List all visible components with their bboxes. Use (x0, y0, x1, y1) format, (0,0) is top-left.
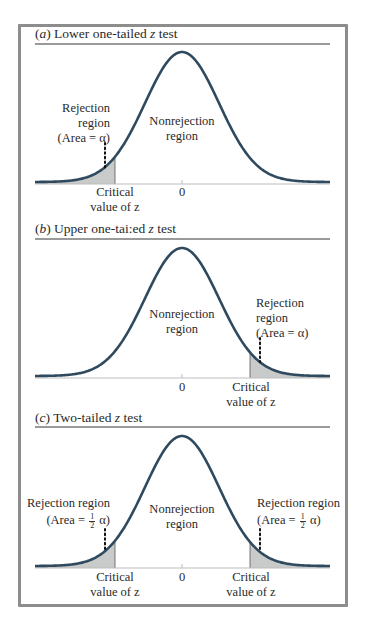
panel-c-nonrejection-label: Nonrejection region (146, 502, 218, 532)
one-half-fraction: 12 (89, 513, 95, 530)
panel-c-right-rejection-label: Rejection region (Area = 12 α) (257, 496, 341, 530)
panel-b-critical-value-label: Critical value of z (220, 380, 282, 410)
panel-b-rejection-label: Rejection region (Area = α) (256, 296, 316, 341)
panel-b-nonrejection-label: Nonrejection region (146, 307, 218, 337)
panel-a-rejection-label: Rejection region (Area = α) (52, 101, 110, 146)
panel-a-nonrejection-label: Nonrejection region (146, 114, 218, 144)
panel-c-zero-label: 0 (176, 570, 188, 585)
panel-a-title: (a) Lower one-tailed z test (35, 26, 177, 42)
panel-b-title: (b) Upper one-tai:ed z test (35, 221, 176, 237)
panel-a-critical-value-label: Critical value of z (84, 185, 146, 215)
panel-b-zero-label: 0 (176, 380, 188, 395)
panel-a-zero-label: 0 (176, 185, 188, 200)
panel-c-right-critical-value-label: Critical value of z (220, 570, 282, 600)
panel-c-left-critical-value-label: Critical value of z (84, 570, 146, 600)
one-half-fraction: 12 (300, 513, 306, 530)
panel-c-title: (c) Two-tailed z test (35, 410, 142, 426)
panel-c-left-rejection-label: Rejection region (Area = 12 α) (26, 496, 110, 530)
